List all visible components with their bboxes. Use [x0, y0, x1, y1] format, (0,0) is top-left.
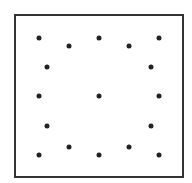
- dot: [37, 36, 42, 41]
- dot: [67, 44, 72, 49]
- dot: [67, 145, 72, 150]
- dot: [97, 153, 102, 158]
- dot: [127, 44, 132, 49]
- dot: [37, 153, 42, 158]
- dot: [45, 65, 50, 70]
- dot: [45, 124, 50, 129]
- dot: [149, 124, 154, 129]
- dot: [97, 36, 102, 41]
- dot: [97, 94, 102, 99]
- dot: [149, 65, 154, 70]
- dot: [157, 36, 162, 41]
- dot: [157, 153, 162, 158]
- dot: [157, 94, 162, 99]
- dot: [127, 145, 132, 150]
- dot: [37, 94, 42, 99]
